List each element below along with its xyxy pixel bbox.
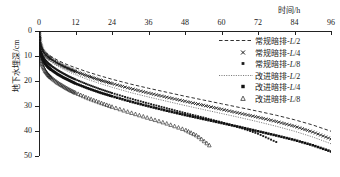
data-marker — [109, 91, 111, 93]
data-marker — [298, 140, 301, 143]
data-marker — [298, 126, 301, 129]
data-marker — [127, 97, 129, 99]
data-marker — [92, 85, 94, 87]
data-marker — [130, 111, 134, 115]
data-marker — [132, 101, 135, 104]
data-marker — [254, 132, 256, 134]
data-marker — [293, 139, 296, 142]
data-marker — [265, 132, 268, 135]
legend-label: 改进暗排-L/4 — [253, 81, 300, 92]
data-marker — [106, 90, 108, 92]
data-marker — [148, 103, 150, 105]
data-marker — [267, 118, 270, 121]
data-marker — [327, 149, 330, 152]
y-tick-mark — [35, 156, 39, 157]
data-marker — [90, 85, 92, 87]
data-marker — [141, 114, 145, 118]
data-marker — [102, 89, 104, 91]
data-marker — [184, 112, 186, 114]
data-marker — [126, 110, 130, 114]
legend-item-6[interactable]: 改进暗排-L/8 — [219, 93, 337, 105]
data-marker — [181, 127, 185, 131]
data-marker — [223, 108, 226, 111]
data-marker — [124, 86, 127, 89]
legend-item-4[interactable]: 改进暗排-L/2 — [219, 70, 337, 82]
x-tick-label: 24 — [100, 18, 124, 27]
data-marker — [244, 127, 247, 129]
legend-key-dashed-line — [219, 35, 253, 46]
data-marker — [197, 117, 200, 120]
data-marker — [161, 120, 165, 124]
data-marker — [126, 86, 129, 89]
data-marker — [257, 130, 260, 133]
data-marker — [272, 119, 275, 122]
data-marker — [145, 104, 148, 107]
data-marker — [119, 94, 121, 96]
y-tick-label: 0 — [16, 26, 32, 35]
legend-item-1[interactable]: 常规暗排-L/2 — [219, 35, 337, 47]
data-marker — [76, 79, 78, 81]
data-marker — [285, 123, 288, 126]
data-marker — [149, 117, 153, 121]
data-marker — [210, 105, 213, 108]
data-marker — [212, 120, 215, 123]
legend-item-3[interactable]: 常规暗排-L/8 — [219, 58, 337, 70]
legend-label: 改进暗排-L/8 — [253, 93, 300, 104]
y-tick-label: 30 — [16, 101, 32, 110]
data-marker — [132, 98, 134, 100]
data-marker — [161, 106, 163, 108]
x-tick-label: 72 — [246, 18, 270, 27]
data-marker — [129, 98, 131, 100]
data-marker — [145, 102, 147, 104]
data-marker — [169, 123, 173, 127]
data-marker — [124, 96, 126, 98]
data-marker — [252, 129, 255, 132]
data-marker — [243, 113, 246, 116]
data-marker — [116, 94, 118, 96]
data-marker — [215, 121, 218, 124]
data-marker — [262, 135, 264, 137]
x-tick-label: 12 — [64, 18, 88, 27]
data-marker — [155, 93, 158, 96]
data-marker — [270, 119, 273, 122]
data-marker — [187, 113, 189, 115]
legend-item-2[interactable]: 常规暗排-L/4 — [219, 47, 337, 59]
data-marker — [199, 117, 202, 120]
data-marker — [94, 86, 96, 88]
data-marker — [179, 111, 181, 113]
data-marker — [301, 127, 304, 130]
data-marker — [278, 135, 281, 138]
data-marker — [168, 110, 171, 113]
data-marker — [158, 105, 160, 107]
data-marker — [124, 99, 127, 102]
data-marker — [301, 141, 304, 144]
data-marker — [131, 88, 134, 91]
x-tick-label: 84 — [283, 18, 307, 27]
legend-item-5[interactable]: 改进暗排-L/4 — [219, 81, 337, 93]
data-marker — [142, 104, 145, 107]
data-marker — [163, 107, 165, 109]
data-marker — [322, 148, 325, 151]
data-marker — [111, 95, 114, 98]
data-marker — [147, 92, 150, 95]
data-marker — [153, 104, 155, 106]
data-marker — [288, 123, 291, 126]
data-marker — [217, 107, 220, 110]
data-marker — [171, 111, 174, 114]
data-marker — [155, 107, 158, 110]
data-marker — [293, 125, 296, 128]
data-marker — [121, 98, 124, 101]
data-marker — [114, 106, 118, 110]
x-tick-label: 48 — [173, 18, 197, 27]
data-marker — [306, 129, 309, 132]
data-marker — [241, 112, 244, 115]
data-marker — [283, 136, 286, 139]
data-marker — [137, 89, 140, 92]
data-marker — [142, 90, 145, 93]
data-marker — [205, 118, 208, 121]
data-marker — [140, 100, 142, 102]
data-marker — [137, 100, 139, 102]
data-marker — [165, 96, 168, 99]
data-marker — [270, 139, 272, 141]
data-marker — [179, 113, 182, 116]
